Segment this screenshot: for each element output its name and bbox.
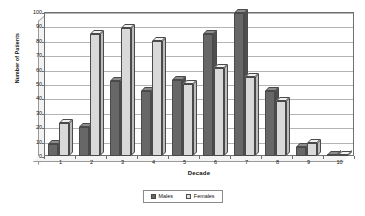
bar-females-decade-6 — [214, 68, 224, 156]
bar-group — [141, 12, 162, 156]
bar-males-decade-4 — [141, 91, 151, 156]
x-axis-title: Decade — [44, 170, 354, 176]
bar-front-face — [203, 34, 213, 156]
x-axis-tick-mark — [106, 156, 107, 159]
bar-group — [48, 12, 69, 156]
legend-swatch-females-icon — [186, 194, 191, 199]
x-axis-tick-mark — [137, 156, 138, 159]
x-axis-tick-mark — [44, 156, 45, 159]
x-axis-tick-label: 2 — [90, 160, 93, 166]
bar-front-face — [214, 68, 224, 156]
bar-front-face — [307, 143, 317, 156]
bar-front-face — [265, 91, 275, 156]
bar-side-face — [224, 64, 228, 156]
bar-males-decade-2 — [79, 127, 89, 156]
bar-side-face — [162, 37, 166, 156]
x-axis-tick-mark — [230, 156, 231, 159]
bar-males-decade-7 — [234, 13, 244, 156]
legend-swatch-males-icon — [150, 194, 155, 199]
bar-group — [234, 12, 255, 156]
x-axis-tick-mark — [168, 156, 169, 159]
bar-group — [79, 12, 100, 156]
bar-side-face — [193, 80, 197, 156]
y-axis-title: Number of Patients — [14, 8, 20, 108]
bar-females-decade-10 — [338, 155, 348, 156]
plot-floor — [33, 156, 348, 162]
x-axis-tick-mark — [75, 156, 76, 159]
bar-chart: Number of Patients 010203040506070809010… — [0, 0, 365, 216]
bar-females-decade-5 — [183, 84, 193, 156]
x-axis-tick-label: 7 — [245, 160, 248, 166]
bar-females-decade-4 — [152, 41, 162, 156]
bar-front-face — [172, 80, 182, 156]
bar-females-decade-1 — [59, 123, 69, 156]
bar-side-face — [131, 24, 135, 156]
bar-front-face — [79, 127, 89, 156]
bar-side-face — [255, 73, 259, 156]
bar-females-decade-9 — [307, 143, 317, 156]
bar-side-face — [286, 97, 290, 156]
bars-layer — [44, 12, 354, 156]
chart-legend: Males Females — [142, 190, 222, 203]
legend-label-females: Females — [194, 194, 215, 199]
x-axis-tick-mark — [199, 156, 200, 159]
bar-males-decade-6 — [203, 34, 213, 156]
bar-females-decade-7 — [245, 77, 255, 156]
bar-front-face — [245, 77, 255, 156]
bar-front-face — [296, 147, 306, 156]
bar-group — [327, 12, 348, 156]
x-axis-tick-label: 8 — [276, 160, 279, 166]
bar-front-face — [338, 154, 348, 156]
bar-front-face — [183, 84, 193, 156]
bar-front-face — [152, 41, 162, 156]
bar-front-face — [234, 13, 244, 156]
legend-entry-males: Males — [150, 194, 172, 199]
x-axis-tick-label: 3 — [121, 160, 124, 166]
bar-males-decade-3 — [110, 81, 120, 156]
bar-females-decade-8 — [276, 101, 286, 156]
bar-group — [172, 12, 193, 156]
bar-males-decade-1 — [48, 144, 58, 156]
bar-front-face — [59, 123, 69, 156]
bar-males-decade-10 — [327, 155, 337, 156]
bar-front-face — [48, 144, 58, 156]
bar-side-face — [69, 119, 73, 156]
bar-front-face — [327, 154, 337, 156]
bar-front-face — [121, 28, 131, 156]
x-axis-tick-mark — [292, 156, 293, 159]
legend-label-males: Males — [158, 194, 172, 199]
legend-entry-females: Females — [186, 194, 215, 199]
bar-group — [203, 12, 224, 156]
bar-group — [110, 12, 131, 156]
x-axis-tick-mark — [261, 156, 262, 159]
x-axis-tick-label: 5 — [183, 160, 186, 166]
x-axis-tick-mark — [323, 156, 324, 159]
bar-side-face — [100, 30, 104, 156]
bar-front-face — [110, 81, 120, 156]
x-axis-tick-label: 1 — [59, 160, 62, 166]
bar-front-face — [276, 101, 286, 156]
x-axis-tick-mark — [354, 156, 355, 159]
bar-males-decade-9 — [296, 147, 306, 156]
bar-group — [296, 12, 317, 156]
x-axis-tick-label: 4 — [152, 160, 155, 166]
bar-group — [265, 12, 286, 156]
bar-front-face — [141, 91, 151, 156]
bar-females-decade-3 — [121, 28, 131, 156]
bar-males-decade-5 — [172, 80, 182, 156]
bar-front-face — [90, 34, 100, 156]
x-axis-tick-label: 9 — [307, 160, 310, 166]
x-axis-tick-label: 10 — [336, 160, 342, 166]
bar-females-decade-2 — [90, 34, 100, 156]
bar-males-decade-8 — [265, 91, 275, 156]
x-axis-tick-label: 6 — [214, 160, 217, 166]
